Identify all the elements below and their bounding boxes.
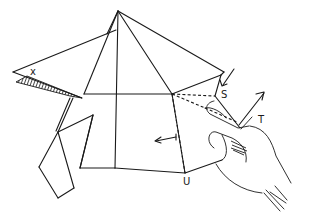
label-t: T <box>257 114 265 125</box>
hand-illustration <box>205 101 291 211</box>
fold-arrow-left <box>155 134 176 143</box>
push-arrow-at-S <box>220 69 234 86</box>
label-x: x <box>30 66 36 77</box>
label-u: U <box>183 176 190 187</box>
shaded-flap <box>16 76 82 98</box>
dashed-fold-lines <box>172 94 237 173</box>
label-s: S <box>221 89 227 100</box>
left-flap <box>13 30 116 198</box>
origami-diagram: x S T U <box>0 0 311 224</box>
